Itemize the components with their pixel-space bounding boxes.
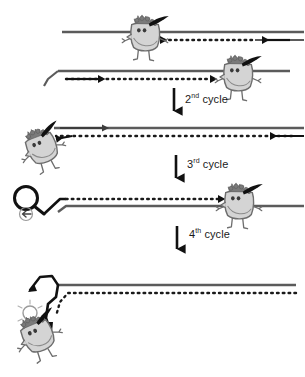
cycle-suffix-3: rd: [193, 157, 199, 164]
step-1-panel: [62, 15, 304, 61]
cycle-word-2: cycle: [202, 93, 228, 105]
step-4-panel: [15, 183, 305, 229]
nascent-arrow-third-left: [56, 136, 72, 139]
step-5-panel: [8, 276, 296, 369]
cycle-label-4th: 4th cycle: [189, 228, 230, 240]
cycle-word-4: cycle: [204, 228, 230, 240]
strand-tail-second: [44, 71, 58, 86]
step-3-panel: [13, 120, 304, 180]
strand-bend-fourth: [44, 199, 66, 214]
template-strand-fourth: [58, 206, 304, 212]
cycle-label-3rd: 3rd cycle: [187, 158, 228, 170]
figure-canvas: 2nd cycle 3rd cycle 4th cycle: [0, 0, 304, 377]
cycle-suffix-4: th: [195, 227, 201, 234]
hairpin-stem-left: [34, 206, 44, 214]
nascent-strand-final: [56, 293, 296, 316]
loop-direction-arrow-icon: [23, 211, 32, 217]
polymerase-top-left: [122, 15, 169, 61]
step-2-panel: [44, 55, 290, 101]
cycle-suffix-2: nd: [191, 92, 199, 99]
diagram-svg: [0, 0, 304, 377]
cycle-word-3: cycle: [203, 158, 229, 170]
cycle-label-2nd: 2nd cycle: [185, 93, 228, 105]
polymerase-final-bottom: [8, 306, 71, 369]
